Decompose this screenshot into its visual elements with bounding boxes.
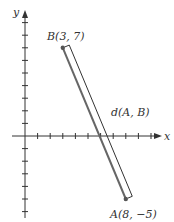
x-axis-label: x (164, 130, 171, 143)
y-axis-arrow-icon (22, 10, 28, 18)
coordinate-diagram: x y B(3, 7) A(8, −5) d(A, B) (0, 0, 174, 222)
point-A (124, 197, 128, 201)
distance-bracket (65, 45, 133, 198)
point-A-label: A(8, −5) (109, 208, 157, 221)
y-axis-label: y (12, 6, 20, 19)
point-B (61, 46, 65, 50)
segment-AB (63, 48, 126, 199)
x-axis-arrow-icon (154, 133, 162, 139)
distance-label: d(A, B) (111, 106, 150, 119)
point-B-label: B(3, 7) (46, 30, 85, 43)
